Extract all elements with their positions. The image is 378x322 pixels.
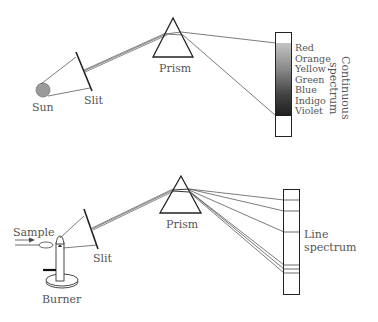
slit-icon — [84, 209, 98, 249]
slit-icon — [76, 52, 92, 91]
color-label: Orange — [295, 53, 331, 64]
svg-text:Line: Line — [304, 228, 328, 241]
sun-label: Sun — [32, 101, 54, 114]
svg-text:spectrum: spectrum — [327, 62, 340, 115]
spectroscopy-diagram: Sun Slit Prism Red Orange Yellow Green — [0, 0, 378, 322]
color-label: Blue — [295, 84, 317, 95]
line-spectrum-title: Line spectrum — [304, 228, 357, 254]
prism-label: Prism — [159, 62, 192, 75]
sample-nebulizer-icon — [39, 242, 53, 248]
color-label: Red — [295, 42, 314, 53]
color-label: Green — [295, 74, 325, 85]
continuous-spectrum-screen — [276, 33, 292, 137]
color-label: Violet — [294, 105, 323, 116]
burner-label: Burner — [42, 293, 82, 306]
continuous-spectrum-diagram: Sun Slit Prism Red Orange Yellow Green — [32, 18, 352, 137]
continuous-spectrum-title: Continuous spectrum — [327, 56, 352, 120]
spectrum-color-labels: Red Orange Yellow Green Blue Indigo Viol… — [294, 42, 331, 116]
line-spectrum-diagram: Sample Burner Slit Prism — [13, 176, 357, 306]
prism-label: Prism — [166, 218, 199, 231]
sun-icon — [36, 83, 50, 97]
sample-label: Sample — [13, 226, 55, 239]
color-label: Indigo — [295, 95, 326, 106]
svg-text:spectrum: spectrum — [304, 241, 357, 254]
slit-label: Slit — [93, 252, 113, 265]
line-spectrum-screen — [284, 190, 300, 295]
slit-label: Slit — [84, 94, 104, 107]
emission-rays — [189, 189, 284, 273]
color-label: Yellow — [294, 63, 326, 74]
